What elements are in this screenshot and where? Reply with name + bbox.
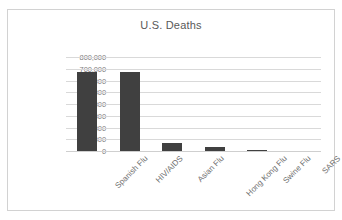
bar-slot	[236, 48, 279, 151]
bar-slot	[194, 48, 237, 151]
x-axis-tick-label: SARS	[320, 154, 342, 176]
chart-container: U.S. Deaths 800,000700,000600,000500,000…	[7, 9, 335, 211]
x-axis-tick-label: Spanish Flu	[114, 154, 150, 190]
bar-series	[66, 48, 321, 151]
x-axis-tick-label: Asian Flu	[196, 154, 226, 184]
bar[interactable]	[120, 72, 140, 151]
bar[interactable]	[205, 147, 225, 151]
bar[interactable]	[247, 150, 267, 152]
chart-title: U.S. Deaths	[8, 19, 334, 31]
x-axis-tick-labels: Spanish FluHIV/AIDSAsian FluHong Kong Fl…	[66, 152, 321, 220]
bar-slot	[279, 48, 322, 151]
bar-slot	[66, 48, 109, 151]
x-axis-tick-label: Hong Kong Flu	[244, 154, 288, 198]
x-axis-tick-label: HIV/AIDS	[154, 154, 185, 185]
bar-slot	[109, 48, 152, 151]
bar[interactable]	[162, 143, 182, 151]
bar-slot	[151, 48, 194, 151]
bar[interactable]	[77, 72, 97, 151]
